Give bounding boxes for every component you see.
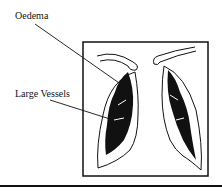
clavicle-right <box>154 47 197 65</box>
lung-left-opacity <box>105 72 133 155</box>
clavicle-left <box>97 54 137 70</box>
lung-right-opacity <box>168 70 197 160</box>
chest-xray-diagram <box>0 0 222 193</box>
leader-large-vessels <box>50 100 110 119</box>
xray-frame <box>83 42 208 176</box>
horizontal-rule <box>0 185 222 187</box>
